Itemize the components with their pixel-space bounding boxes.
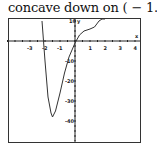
y-tick-label: -40 [65, 118, 75, 124]
y-tick-label: -10 [65, 58, 75, 64]
x-tick-label: -3 [27, 45, 33, 51]
x-tick-label: 4 [134, 45, 138, 51]
y-tick-label: -20 [65, 78, 75, 84]
x-tick-label: 2 [104, 45, 108, 51]
x-tick-label: 1 [89, 45, 93, 51]
y-tick-label: -30 [65, 98, 75, 104]
x-tick-label: -1 [57, 45, 63, 51]
y-axis [74, 19, 76, 141]
chart: y x -3-2-1123410-10-20-30-40 [0, 0, 157, 148]
x-tick-label: 3 [119, 45, 123, 51]
y-tick-label: 10 [69, 18, 76, 24]
x-axis [8, 40, 141, 42]
x-tick-label: -2 [42, 45, 48, 51]
y-axis-label: y [77, 18, 81, 25]
x-axis-label: x [135, 33, 139, 39]
